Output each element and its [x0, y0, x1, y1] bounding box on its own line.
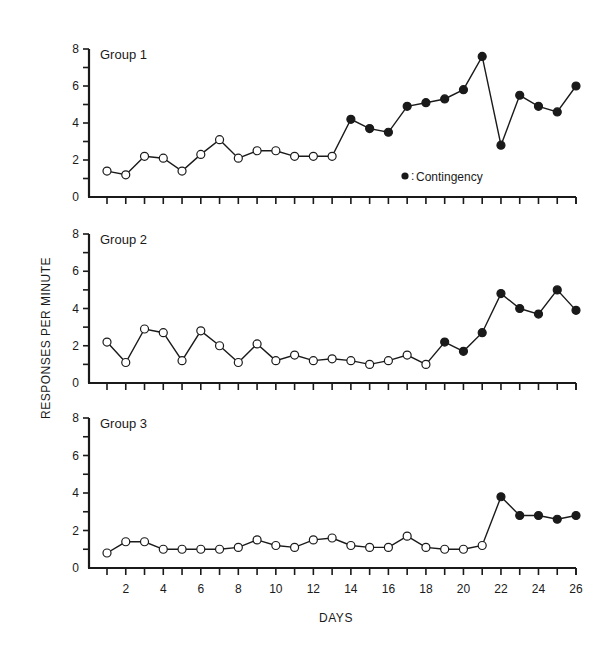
panels-container: 02468Group 1:Contingency02468Group 20246…: [72, 42, 583, 596]
contingency-point: [572, 512, 580, 520]
baseline-point: [141, 325, 149, 333]
y-tick-label: 6: [72, 449, 79, 463]
contingency-point: [516, 512, 524, 520]
contingency-point: [441, 338, 449, 346]
x-axis-title: DAYS: [319, 611, 353, 625]
legend: :Contingency: [401, 169, 482, 184]
y-tick-label: 4: [72, 486, 79, 500]
baseline-point: [422, 543, 430, 551]
contingency-point: [553, 515, 561, 523]
y-axis-title: RESPONSES PER MINUTE: [39, 257, 53, 419]
y-tick-label: 8: [72, 42, 79, 56]
legend-label: Contingency: [416, 170, 483, 184]
contingency-point: [534, 512, 542, 520]
contingency-point: [553, 108, 561, 116]
y-tick-label: 2: [72, 153, 79, 167]
baseline-point: [366, 543, 374, 551]
y-tick-label: 8: [72, 411, 79, 425]
baseline-point: [103, 167, 111, 175]
panel-group-2: 02468Group 2: [72, 227, 580, 390]
contingency-point: [497, 493, 505, 501]
baseline-point: [253, 536, 261, 544]
contingency-point: [478, 329, 486, 337]
legend-equals: :: [411, 169, 414, 183]
baseline-point: [291, 351, 299, 359]
baseline-point: [422, 360, 430, 368]
contingency-point: [516, 305, 524, 313]
baseline-point: [141, 538, 149, 546]
y-tick-label: 4: [72, 302, 79, 316]
y-tick-label: 8: [72, 227, 79, 241]
baseline-point: [272, 357, 280, 365]
contingency-point: [572, 306, 580, 314]
y-tick-label: 0: [72, 561, 79, 575]
baseline-point: [159, 545, 167, 553]
contingency-point: [403, 102, 411, 110]
baseline-point: [253, 340, 261, 348]
baseline-point: [159, 154, 167, 162]
panel-title: Group 2: [100, 232, 147, 247]
baseline-point: [478, 542, 486, 550]
baseline-point: [178, 545, 186, 553]
contingency-point: [478, 52, 486, 60]
contingency-point: [366, 125, 374, 133]
contingency-point: [534, 310, 542, 318]
contingency-point: [497, 290, 505, 298]
baseline-point: [216, 545, 224, 553]
baseline-point: [253, 147, 261, 155]
y-tick-label: 6: [72, 79, 79, 93]
baseline-point: [347, 542, 355, 550]
baseline-point: [122, 538, 130, 546]
baseline-point: [141, 152, 149, 160]
contingency-point: [459, 86, 467, 94]
baseline-point: [234, 359, 242, 367]
legend-filled-circle-icon: [401, 172, 408, 179]
baseline-point: [272, 542, 280, 550]
baseline-point: [309, 152, 317, 160]
baseline-point: [122, 171, 130, 179]
x-tick-label: 24: [532, 582, 546, 596]
baseline-point: [328, 534, 336, 542]
x-tick-label: 18: [419, 582, 433, 596]
contingency-point: [384, 128, 392, 136]
y-tick-label: 4: [72, 116, 79, 130]
x-tick-label: 26: [569, 582, 583, 596]
panel-title: Group 1: [100, 47, 147, 62]
series-line: [107, 290, 576, 365]
x-tick-label: 6: [197, 582, 204, 596]
panel-title: Group 3: [100, 416, 147, 431]
baseline-point: [291, 152, 299, 160]
baseline-point: [384, 543, 392, 551]
x-tick-label: 10: [269, 582, 283, 596]
series-line: [107, 497, 576, 553]
contingency-point: [553, 286, 561, 294]
baseline-point: [216, 342, 224, 350]
baseline-point: [403, 351, 411, 359]
contingency-point: [347, 115, 355, 123]
baseline-point: [272, 147, 280, 155]
y-tick-label: 2: [72, 339, 79, 353]
contingency-point: [459, 347, 467, 355]
baseline-point: [347, 357, 355, 365]
baseline-point: [366, 360, 374, 368]
y-tick-label: 6: [72, 264, 79, 278]
baseline-point: [234, 154, 242, 162]
baseline-point: [197, 545, 205, 553]
contingency-point: [572, 82, 580, 90]
panel-group-3: 02468Group 32468101214161820222426: [72, 411, 583, 596]
series-line: [107, 56, 576, 174]
baseline-point: [309, 536, 317, 544]
chart-figure: 02468Group 1:Contingency02468Group 20246…: [0, 0, 615, 660]
baseline-point: [441, 545, 449, 553]
x-tick-label: 8: [235, 582, 242, 596]
x-tick-label: 16: [382, 582, 396, 596]
x-tick-label: 22: [494, 582, 508, 596]
baseline-point: [159, 329, 167, 337]
baseline-point: [178, 167, 186, 175]
y-tick-label: 0: [72, 190, 79, 204]
contingency-point: [441, 95, 449, 103]
contingency-point: [422, 99, 430, 107]
x-tick-label: 12: [307, 582, 321, 596]
y-tick-label: 0: [72, 376, 79, 390]
baseline-point: [103, 338, 111, 346]
